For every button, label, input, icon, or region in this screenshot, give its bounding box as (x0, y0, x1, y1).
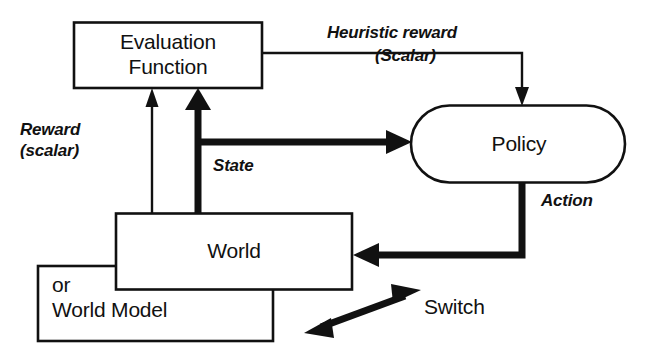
edge-label-state: State (213, 155, 254, 176)
edge-label-switch: Switch (424, 296, 485, 317)
edge-label-action: Action (541, 190, 593, 211)
node-world-label: World (116, 238, 352, 263)
edge-label-heuristic-reward: Heuristic reward (327, 22, 457, 43)
edge-switch-double-arrow (304, 284, 421, 338)
node-policy-label: Policy (412, 131, 626, 156)
edge-action-arrow (353, 182, 522, 267)
node-evaluation-function-label: Evaluation Function (74, 29, 262, 79)
edge-label-heuristic-reward-scalar: (Scalar) (375, 45, 436, 66)
edge-state-arrow (185, 88, 412, 214)
diagram-canvas: Evaluation Function Policy World or Worl… (0, 0, 659, 364)
node-world-model-label: or World Model (52, 272, 252, 322)
edge-label-reward: Reward (scalar) (20, 119, 80, 161)
edge-reward-arrow (146, 88, 159, 214)
